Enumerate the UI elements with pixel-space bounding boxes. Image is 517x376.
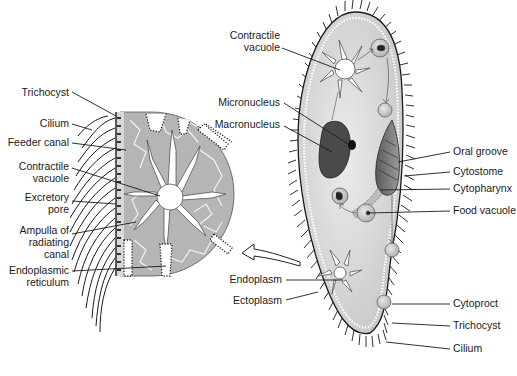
label-cytopharynx: Cytopharynx	[453, 182, 513, 194]
label-macronucleus: Macronucleus	[215, 118, 280, 130]
food-vacuole-4	[385, 243, 399, 257]
label-endoplasm: Endoplasm	[229, 273, 282, 285]
food-vacuole-5	[377, 295, 391, 309]
inset-labels: Trichocyst Cilium Feeder canal Contracti…	[8, 86, 70, 288]
inset-ectoplasm	[116, 112, 124, 276]
label-endoplasmic-reticulum: Endoplasmic	[9, 264, 69, 276]
label-cytostome: Cytostome	[453, 165, 503, 177]
label-excretory-pore-2: pore	[48, 203, 69, 215]
food-vacuole-2	[378, 103, 392, 117]
inset-cilia	[70, 116, 115, 332]
label-inset-contractile-vacuole-2: vacuole	[33, 172, 69, 184]
label-cytoproct: Cytoproct	[453, 297, 498, 309]
body-right-labels: Oral groove Cytostome Cytopharynx Food v…	[453, 145, 516, 354]
label-body-cilium: Cilium	[453, 342, 482, 354]
label-ectoplasm: Ectoplasm	[233, 294, 282, 306]
label-feeder-canal: Feeder canal	[8, 136, 69, 148]
label-body-trichocyst: Trichocyst	[453, 319, 501, 331]
label-ampulla-3: canal	[44, 248, 69, 260]
label-inset-trichocyst: Trichocyst	[22, 86, 70, 98]
label-ampulla: Ampulla of	[19, 224, 69, 236]
label-inset-cilium: Cilium	[40, 117, 69, 129]
label-micronucleus: Micronucleus	[218, 96, 280, 108]
label-contractile-vacuole: Contractile	[230, 29, 280, 41]
label-ampulla-2: radiating	[29, 236, 69, 248]
label-contractile-vacuole-2: vacuole	[244, 41, 280, 53]
label-oral-groove: Oral groove	[453, 145, 508, 157]
label-inset-contractile-vacuole: Contractile	[19, 160, 69, 172]
paramecium-diagram: Trichocyst Cilium Feeder canal Contracti…	[0, 0, 517, 376]
inset-contractile-vacuole	[157, 184, 183, 210]
label-endoplasmic-reticulum-2: reticulum	[26, 276, 69, 288]
micronucleus	[348, 140, 356, 150]
magnify-arrow	[242, 244, 300, 266]
label-excretory-pore: Excretory	[25, 191, 70, 203]
label-food-vacuole: Food vacuole	[453, 204, 516, 216]
